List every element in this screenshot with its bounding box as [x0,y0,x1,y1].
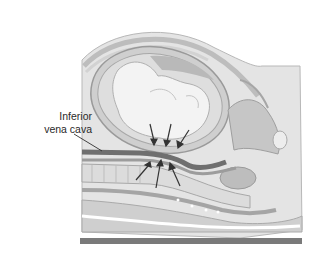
label-line-2: vena cava [22,123,92,136]
exam-table [80,238,302,244]
inferior-vena-cava-label: Inferior vena cava [22,110,92,136]
label-line-1: Inferior [22,110,92,123]
anatomical-illustration: Inferior vena cava [0,0,320,261]
